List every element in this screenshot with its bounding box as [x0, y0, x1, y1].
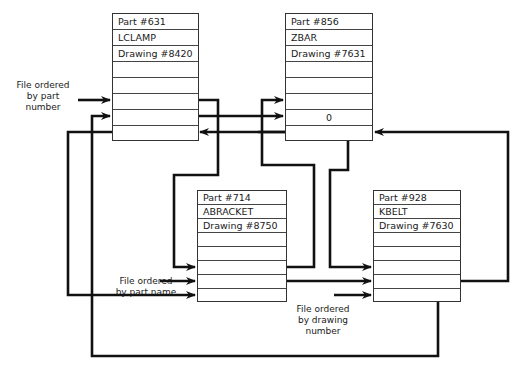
record-928: Part #928 KBELT Drawing #7630 — [373, 190, 461, 302]
blank-field — [113, 78, 198, 94]
pointer-field-drawing-number — [374, 289, 460, 303]
blank-field — [198, 233, 286, 247]
pointer-field-part-name — [113, 110, 198, 126]
label-line: File ordered — [112, 276, 180, 287]
null-pointer-value: 0 — [286, 112, 372, 123]
blank-field — [198, 247, 286, 261]
part-number-field: Part #856 — [286, 14, 372, 30]
connector-lines — [0, 0, 521, 374]
part-name-field: ZBAR — [286, 30, 372, 46]
pointer-field-drawing-number — [286, 126, 372, 142]
label-line: number — [290, 326, 356, 337]
record-631: Part #631 LCLAMP Drawing #8420 — [112, 13, 199, 141]
drawing-number-field: Drawing #8420 — [113, 46, 198, 62]
label-file-by-part-name: File ordered by part name — [112, 276, 180, 298]
part-name-field: KBELT — [374, 205, 460, 219]
pointer-field-part-name — [198, 275, 286, 289]
part-name-field: LCLAMP — [113, 30, 198, 46]
blank-field — [286, 78, 372, 94]
pointer-field-drawing-number — [113, 126, 198, 142]
drawing-number-field: Drawing #8750 — [198, 219, 286, 233]
label-line: by part name — [112, 287, 180, 298]
part-number-field: Part #631 — [113, 14, 198, 30]
label-file-by-part-number: File ordered by part number — [10, 80, 76, 113]
label-line: number — [10, 102, 76, 113]
label-line: by part — [10, 91, 76, 102]
blank-field — [113, 62, 198, 78]
pointer-field-part-number — [113, 94, 198, 110]
label-line: by drawing — [290, 315, 356, 326]
part-number-field: Part #928 — [374, 191, 460, 205]
pointer-field-drawing-number — [198, 289, 286, 303]
pointer-field-part-name — [374, 275, 460, 289]
label-file-by-drawing-number: File ordered by drawing number — [290, 304, 356, 337]
blank-field — [374, 247, 460, 261]
record-856: Part #856 ZBAR Drawing #7631 0 — [285, 13, 373, 141]
link-631-ptr3 — [68, 132, 195, 295]
blank-field — [374, 233, 460, 247]
blank-field — [286, 62, 372, 78]
pointer-field-part-number — [198, 261, 286, 275]
label-line: File ordered — [290, 304, 356, 315]
drawing-number-field: Drawing #7631 — [286, 46, 372, 62]
pointer-field-part-number — [374, 261, 460, 275]
label-line: File ordered — [10, 80, 76, 91]
drawing-number-field: Drawing #7630 — [374, 219, 460, 233]
pointer-field-part-name: 0 — [286, 110, 372, 126]
pointer-field-part-number — [286, 94, 372, 110]
record-714: Part #714 ABRACKET Drawing #8750 — [197, 190, 287, 302]
part-name-field: ABRACKET — [198, 205, 286, 219]
part-number-field: Part #714 — [198, 191, 286, 205]
